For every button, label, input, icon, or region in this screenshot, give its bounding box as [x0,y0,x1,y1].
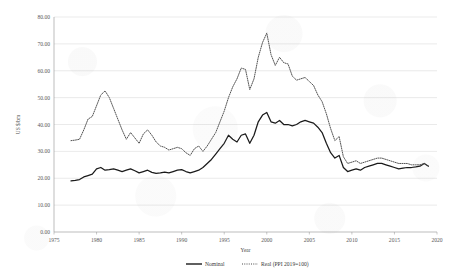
x-tick-label: 2015 [389,237,400,243]
y-tick-label: 70.00 [37,41,50,47]
x-tick-label: 2000 [261,237,272,243]
y-tick-label: 40.00 [37,122,50,128]
y-tick-label: 60.00 [37,68,50,74]
y-tick-label: 30.00 [37,148,50,154]
gridlines [54,17,437,205]
y-axis-title: US $/bm [15,114,21,134]
x-tick-label: 1985 [134,237,145,243]
y-tick-label: 20.00 [37,175,50,181]
y-tick-label: 10.00 [37,202,50,208]
y-tick-label: 80.00 [37,14,50,20]
x-tick-label: 1990 [176,237,187,243]
legend-label-real: Real (PPI 2019=100) [261,261,309,268]
y-tick-labels: 0.0010.0020.0030.0040.0050.0060.0070.008… [37,14,50,235]
x-tick-label: 2010 [346,237,357,243]
series-line-real [71,33,428,166]
legend-label-nominal: Nominal [205,261,225,267]
y-tick-label: 0.00 [40,229,50,235]
x-tick-label: 2005 [304,237,315,243]
line-chart: 0.0010.0020.0030.0040.0050.0060.0070.008… [0,0,458,280]
x-tick-label: 1975 [48,237,59,243]
legend: NominalReal (PPI 2019=100) [186,261,309,268]
x-tick-label: 2020 [431,237,442,243]
x-axis-title: Year [241,247,251,253]
x-tick-label: 1980 [91,237,102,243]
x-tick-label: 1995 [219,237,230,243]
chart-container: 0.0010.0020.0030.0040.0050.0060.0070.008… [0,0,458,280]
series-line-nominal [71,112,428,181]
y-tick-label: 50.00 [37,95,50,101]
series-group [71,33,428,181]
x-tick-labels: 1975198019851990199520002005201020152020 [48,232,442,243]
